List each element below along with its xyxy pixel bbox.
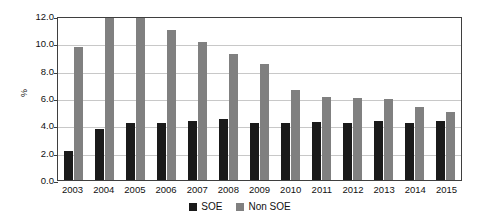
bar-non-soe-2007	[198, 42, 207, 180]
y-axis-tick-labels: 12.010.08.06.04.02.00.0	[26, 0, 54, 223]
legend-swatch-icon	[236, 203, 244, 211]
y-axis-tick: 4.0	[28, 121, 54, 131]
bar-non-soe-2009	[260, 64, 269, 180]
bar-soe-2013	[374, 121, 383, 180]
bar-soe-2010	[281, 123, 290, 180]
bar-non-soe-2006	[167, 30, 176, 180]
legend-label: SOE	[201, 201, 222, 212]
bar-non-soe-2010	[291, 90, 300, 180]
bar-group	[244, 18, 275, 180]
x-axis-tick: 2013	[369, 183, 400, 197]
y-axis-tick: 10.0	[28, 39, 54, 49]
x-axis-tick: 2014	[400, 183, 431, 197]
chart-legend: SOENon SOE	[0, 201, 480, 212]
bar-group	[120, 18, 151, 180]
bar-soe-2008	[219, 119, 228, 181]
legend-label: Non SOE	[248, 201, 290, 212]
bar-non-soe-2014	[415, 107, 424, 180]
bar-non-soe-2013	[384, 99, 393, 180]
bar-group	[275, 18, 306, 180]
x-axis-tick: 2015	[431, 183, 462, 197]
bar-group	[430, 18, 461, 180]
bar-group	[213, 18, 244, 180]
bar-soe-2009	[250, 123, 259, 180]
legend-swatch-icon	[189, 203, 197, 211]
x-axis-tick-labels: 2003200420052006200720082009201020112012…	[57, 183, 462, 197]
bar-group	[368, 18, 399, 180]
y-axis-tick: 2.0	[28, 149, 54, 159]
bar-group	[182, 18, 213, 180]
x-axis-tick: 2011	[306, 183, 337, 197]
x-axis-tick: 2004	[88, 183, 119, 197]
bar-group	[337, 18, 368, 180]
bar-non-soe-2004	[105, 18, 114, 180]
bar-soe-2007	[188, 121, 197, 180]
bar-soe-2012	[343, 123, 352, 180]
bar-group	[58, 18, 89, 180]
bar-non-soe-2011	[322, 97, 331, 180]
y-axis-tick: 6.0	[28, 94, 54, 104]
y-axis-tick: 0.0	[28, 176, 54, 186]
x-axis-tick: 2007	[182, 183, 213, 197]
y-axis-tick: 12.0	[28, 12, 54, 22]
plot-area	[57, 17, 462, 181]
bar-non-soe-2003	[74, 47, 83, 180]
bar-soe-2011	[312, 122, 321, 180]
bar-chart-figure: % 12.010.08.06.04.02.00.0 20032004200520…	[0, 0, 480, 223]
bar-non-soe-2005	[136, 18, 145, 180]
bar-soe-2004	[95, 129, 104, 180]
bar-group	[151, 18, 182, 180]
bar-non-soe-2015	[446, 112, 455, 180]
x-axis-tick: 2005	[119, 183, 150, 197]
bar-group	[89, 18, 120, 180]
y-axis-tick: 8.0	[28, 67, 54, 77]
bar-soe-2015	[436, 121, 445, 180]
legend-item-non-soe: Non SOE	[236, 201, 290, 212]
bar-soe-2014	[405, 123, 414, 180]
x-axis-tick: 2006	[150, 183, 181, 197]
x-axis-tick: 2010	[275, 183, 306, 197]
x-axis-tick: 2008	[213, 183, 244, 197]
x-axis-tick: 2009	[244, 183, 275, 197]
bar-soe-2005	[126, 123, 135, 180]
x-axis-tick: 2012	[337, 183, 368, 197]
bar-non-soe-2012	[353, 98, 362, 180]
bar-soe-2003	[64, 151, 73, 180]
bar-groups	[58, 18, 461, 180]
bar-group	[399, 18, 430, 180]
legend-item-soe: SOE	[189, 201, 222, 212]
bar-non-soe-2008	[229, 54, 238, 180]
bar-soe-2006	[157, 123, 166, 180]
x-axis-tick: 2003	[57, 183, 88, 197]
bar-group	[306, 18, 337, 180]
